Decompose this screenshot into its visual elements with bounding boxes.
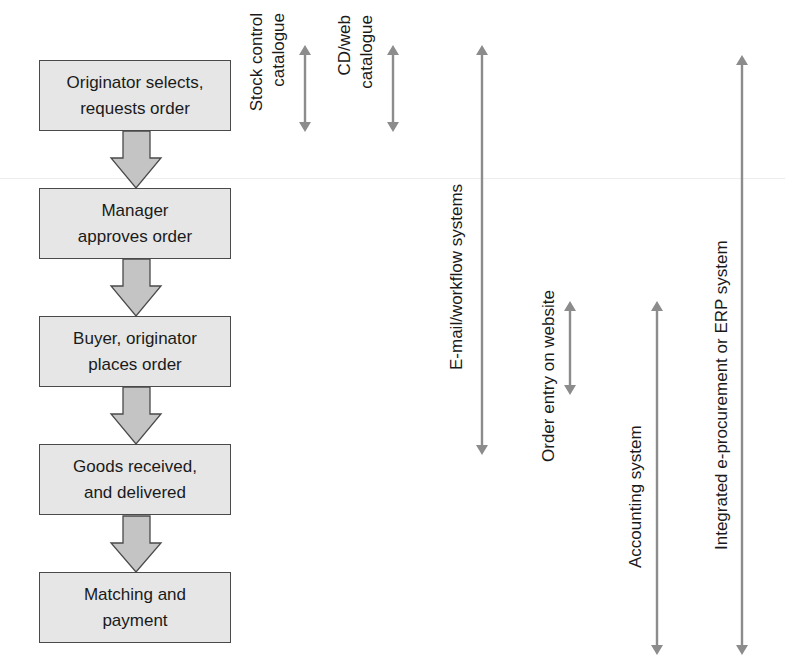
block-arrow-down-icon <box>111 387 161 444</box>
arrows-layer <box>0 0 785 668</box>
system-label-accounting: Accounting system <box>625 425 647 568</box>
system-label-order-entry: Order entry on website <box>538 290 560 462</box>
system-label-email-workflow: E-mail/workflow systems <box>446 184 468 370</box>
block-arrow-down-icon <box>111 516 161 572</box>
system-label-stock-control: Stock control catalogue <box>246 13 290 158</box>
system-label-cd-web: CD/web catalogue <box>334 15 378 115</box>
block-arrow-down-icon <box>111 131 161 188</box>
system-label-erp: Integrated e-procurement or ERP system <box>711 240 733 550</box>
block-arrow-down-icon <box>111 259 161 316</box>
